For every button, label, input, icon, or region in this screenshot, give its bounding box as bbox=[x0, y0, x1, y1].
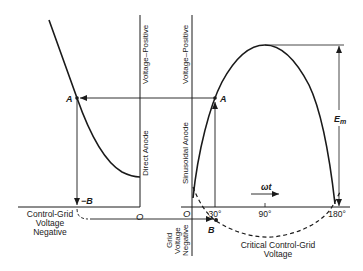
critical-grid-label-2: Voltage bbox=[264, 249, 293, 259]
point-a-left bbox=[75, 96, 79, 100]
point-a-right bbox=[213, 96, 217, 100]
grid-voltage-negative-label-3: Negative bbox=[181, 224, 190, 256]
label-a-left: A bbox=[65, 94, 73, 104]
critical-grid-voltage-diagram: A −B O Voltage–Positive Direct Anode Con… bbox=[0, 0, 363, 271]
left-panel: A −B O Voltage–Positive Direct Anode Con… bbox=[18, 15, 150, 237]
right-panel: A B Em ωt 30° 90° 180° O Voltage–Positiv… bbox=[165, 15, 350, 259]
direct-anode-label: Direct Anode bbox=[141, 130, 150, 176]
control-grid-label-3: Negative bbox=[33, 227, 67, 237]
label-neg-b: −B bbox=[81, 196, 93, 206]
tick-label-180: 180° bbox=[328, 209, 346, 219]
voltage-positive-right-label: Voltage–Positive bbox=[181, 24, 190, 84]
tick-label-30: 30° bbox=[209, 209, 222, 219]
anode-voltage-sine-curve bbox=[193, 45, 335, 204]
tube-characteristic-curve bbox=[49, 20, 140, 177]
label-b: B bbox=[208, 225, 215, 235]
origin-right: O bbox=[183, 208, 191, 219]
label-omega-t: ωt bbox=[261, 182, 273, 192]
tick-label-90: 90° bbox=[259, 209, 272, 219]
label-a-right: A bbox=[219, 94, 227, 104]
sinusoidal-anode-label: Sinusoidal Anode bbox=[181, 122, 190, 184]
neg-b-dashed-connector bbox=[77, 209, 88, 219]
voltage-positive-left-label: Voltage–Positive bbox=[141, 24, 150, 84]
origin-left: O bbox=[136, 211, 144, 222]
label-em: Em bbox=[334, 114, 346, 125]
